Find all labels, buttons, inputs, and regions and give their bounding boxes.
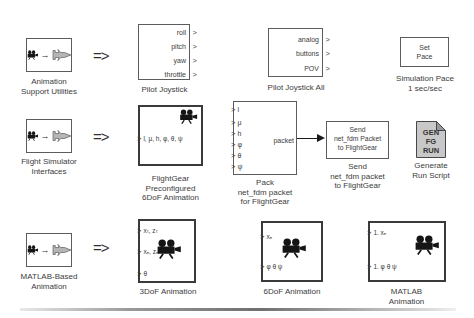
input-port-icon: > (137, 135, 141, 143)
send-block-text: net_fdm Packet (327, 135, 388, 144)
output-port-icon: > (193, 42, 197, 50)
movie-camera-icon (414, 235, 440, 255)
input-port-xe: >xₑ (260, 233, 272, 241)
flightgear-preconfigured-6dof-animation-block[interactable]: > l, μ, h, φ, θ, ψ (138, 105, 203, 166)
implies-symbol-row3: => (93, 239, 109, 256)
output-port-analog: analog> (298, 36, 319, 43)
movie-camera-icon (27, 50, 39, 60)
input-port-icon: > (367, 229, 371, 237)
input-port-1-phi-theta-psi: >1. φ θ ψ (367, 263, 397, 271)
output-port-icon: > (193, 56, 197, 64)
output-port-yaw: yaw> (174, 57, 186, 64)
input-port-icon: > (231, 141, 235, 149)
implies-symbol-row1: => (93, 47, 109, 64)
matlab-animation-block[interactable]: >1. xₑ >1. φ θ ψ (368, 221, 446, 282)
simulink-animation-library-canvas: → Animation Support Utilities => roll> p… (0, 0, 474, 318)
output-port-roll: roll> (177, 29, 186, 36)
send-block-text: to FlightGear (327, 144, 388, 153)
run-script-doc-text: GEN FG RUN (416, 128, 446, 155)
input-port-lla-euler: > l, μ, h, φ, θ, ψ (137, 135, 183, 143)
set-pace-text: Pace (401, 53, 448, 62)
input-port-1-xe: >1. xₑ (367, 229, 386, 237)
output-port-icon: > (193, 28, 197, 36)
output-port-pov: POV> (304, 65, 319, 72)
aircraft-icon (52, 48, 71, 62)
output-port-icon: > (193, 70, 197, 78)
6dof-animation-label: 6DoF Animation (242, 287, 342, 297)
output-port-buttons: buttons> (296, 50, 319, 57)
input-port-icon: > (137, 248, 141, 256)
input-port-icon: > (231, 163, 235, 171)
movie-camera-icon (281, 238, 307, 258)
movie-camera-icon (27, 131, 39, 141)
output-port-icon: > (326, 49, 330, 57)
generate-run-script-label: Generate Run Script (396, 161, 466, 180)
pack-net-fdm-label: Pack net_fdm packet for FlightGear (210, 178, 320, 207)
aircraft-icon (52, 129, 71, 143)
flight-simulator-interfaces-block[interactable]: → (26, 119, 72, 153)
3dof-animation-block[interactable]: >xₜ, zₜ >xₑ, zₑ >θ (138, 219, 196, 283)
pilot-joystick-all-label: Pilot Joystick All (246, 83, 346, 93)
input-port-mu: >μ (231, 119, 241, 127)
right-arrow-icon: → (41, 132, 50, 141)
input-port-icon: > (137, 227, 141, 235)
input-port-theta: >θ (137, 270, 147, 278)
send-net-fdm-packet-block[interactable]: Send net_fdm Packet to FlightGear (326, 121, 389, 159)
bottom-divider-line (20, 308, 456, 311)
input-port-xt-zt: >xₜ, zₜ (137, 227, 158, 235)
animation-support-utilities-block[interactable]: → (26, 38, 72, 72)
pilot-joystick-all-block[interactable]: analog> buttons> POV> (268, 28, 323, 77)
movie-camera-icon (179, 109, 198, 124)
input-port-phi: >φ (231, 141, 242, 149)
animation-support-utilities-label: Animation Support Utilities (6, 77, 92, 96)
input-port-phi-theta-psi: >φ θ ψ (260, 263, 282, 271)
signal-line (297, 138, 318, 139)
aircraft-icon (52, 243, 71, 257)
input-port-icon: > (260, 263, 264, 271)
matlab-based-animation-label: MATLAB-Based Animation (2, 272, 96, 291)
input-port-icon: > (260, 233, 264, 241)
implies-symbol-row2: => (93, 128, 109, 145)
pilot-joystick-label: Pilot Joystick (118, 85, 211, 95)
matlab-based-animation-block[interactable]: → (26, 233, 72, 267)
movie-camera-icon (27, 245, 39, 255)
send-block-text: Send (327, 126, 388, 135)
input-port-icon: > (231, 152, 235, 160)
flightgear-preconfigured-label: FlightGear Preconfigured 6DoF Animation (128, 174, 213, 203)
output-port-pitch: pitch> (171, 43, 186, 50)
input-port-icon: > (231, 119, 235, 127)
output-port-throttle: throttle> (165, 71, 186, 78)
input-port-icon: > (231, 130, 235, 138)
output-port-icon: > (326, 35, 330, 43)
input-port-icon: > (137, 270, 141, 278)
movie-camera-icon (156, 239, 182, 259)
input-port-l: >l (231, 106, 239, 114)
right-arrow-icon: → (41, 51, 50, 60)
input-port-h: >h (231, 130, 241, 138)
signal-arrowhead-icon (317, 134, 325, 142)
right-arrow-icon: → (41, 246, 50, 255)
output-port-packet: packet (273, 137, 294, 144)
input-port-icon: > (367, 263, 371, 271)
3dof-animation-label: 3DoF Animation (118, 287, 218, 297)
flight-simulator-interfaces-label: Flight Simulator Interfaces (6, 157, 92, 176)
set-pace-text: Set (401, 44, 448, 53)
pilot-joystick-block[interactable]: roll> pitch> yaw> throttle> (138, 24, 190, 80)
input-port-psi: >ψ (231, 163, 242, 171)
pack-net-fdm-packet-block[interactable]: >l >μ >h >φ >θ >ψ packet (233, 101, 297, 175)
output-port-icon: > (326, 64, 330, 72)
6dof-animation-block[interactable]: >xₑ >φ θ ψ (261, 221, 323, 282)
simulation-pace-block[interactable]: Set Pace (400, 37, 449, 67)
simulation-pace-label: Simulation Pace 1 sec/sec (387, 74, 463, 93)
matlab-animation-label: MATLAB Animation (358, 287, 455, 306)
send-net-fdm-label: Send net_fdm packet to FlightGear (306, 162, 409, 191)
input-port-icon: > (231, 106, 235, 114)
input-port-theta: >θ (231, 152, 241, 160)
